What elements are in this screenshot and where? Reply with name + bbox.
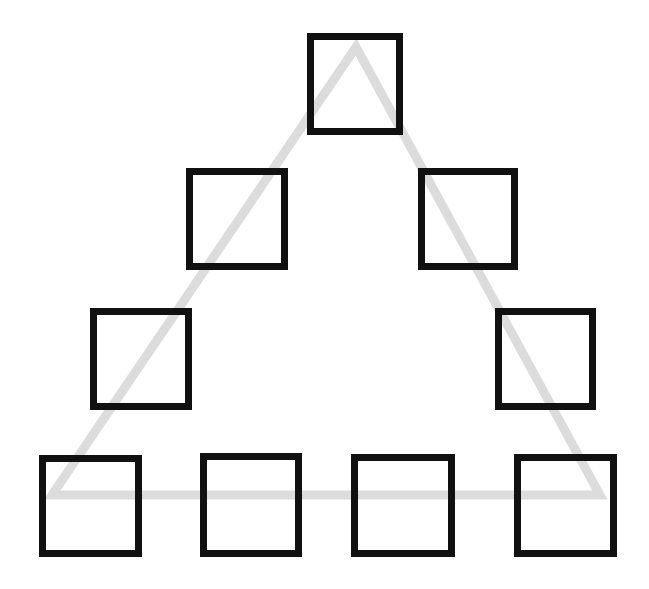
squares-layer bbox=[0, 0, 649, 589]
square-row3-left bbox=[90, 308, 192, 410]
square-row3-right bbox=[495, 308, 596, 410]
square-row2-left bbox=[186, 168, 288, 270]
square-row4-2 bbox=[200, 453, 302, 557]
square-row1-center bbox=[307, 33, 403, 135]
figure-canvas bbox=[0, 0, 649, 589]
square-row4-4 bbox=[514, 454, 617, 557]
square-row2-right bbox=[418, 168, 518, 270]
square-row4-1 bbox=[39, 455, 142, 557]
square-row4-3 bbox=[351, 454, 455, 557]
